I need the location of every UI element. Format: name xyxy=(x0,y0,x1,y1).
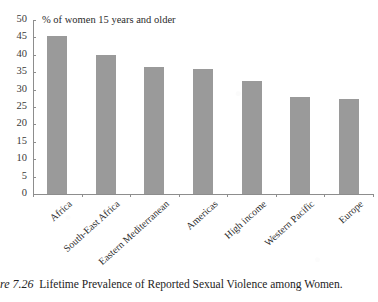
figure-caption: re 7.26 Lifetime Prevalence of Reported … xyxy=(0,277,378,292)
x-axis-label: Africa xyxy=(47,198,73,223)
x-axis-tick-mark xyxy=(276,194,277,197)
x-axis-tick-mark xyxy=(82,194,83,197)
bar xyxy=(144,67,164,194)
bar xyxy=(193,69,213,194)
y-axis-tick-label: 25 xyxy=(17,100,28,111)
x-axis-labels: AfricaSouth-East AfricaEastern Mediterra… xyxy=(0,198,378,268)
x-axis-tick-mark xyxy=(33,194,34,197)
x-axis-label: High income xyxy=(222,198,268,241)
y-axis-tick-label: 50 xyxy=(17,13,28,24)
x-axis-tick-mark xyxy=(324,194,325,197)
y-axis-tick-label: 15 xyxy=(17,135,28,146)
figure-container: % of women 15 years and older 5045403530… xyxy=(0,0,378,302)
y-axis-tick-label: 35 xyxy=(17,65,28,76)
bars-group xyxy=(33,20,373,194)
y-axis-tick-label: 0 xyxy=(22,187,27,198)
x-axis-tick-mark xyxy=(227,194,228,197)
x-axis-label: Europe xyxy=(336,198,365,226)
bar xyxy=(47,36,67,194)
x-axis-label: Americas xyxy=(184,198,220,232)
figure-number: re 7.26 xyxy=(0,277,34,291)
y-axis-tick-label: 20 xyxy=(17,117,28,128)
x-axis-label: Western Pacific xyxy=(262,198,316,248)
figure-caption-text: Lifetime Prevalence of Reported Sexual V… xyxy=(39,278,342,290)
bar xyxy=(290,97,310,194)
bar xyxy=(339,99,359,194)
y-axis-tick-label: 40 xyxy=(17,48,28,59)
x-axis-line xyxy=(33,194,374,195)
y-axis-tick-label: 45 xyxy=(17,30,28,41)
y-axis-tick-label: 5 xyxy=(22,170,27,181)
y-axis-tick-label: 10 xyxy=(17,152,28,163)
bar xyxy=(96,55,116,194)
y-axis-tick-label: 30 xyxy=(17,83,28,94)
x-axis-tick-mark xyxy=(130,194,131,197)
bar xyxy=(242,81,262,194)
x-axis-tick-mark xyxy=(373,194,374,197)
x-axis-tick-mark xyxy=(179,194,180,197)
